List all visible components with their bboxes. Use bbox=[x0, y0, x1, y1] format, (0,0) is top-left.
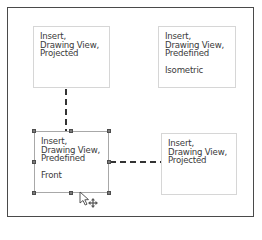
connector-horizontal bbox=[110, 161, 161, 163]
resize-handle-top-left[interactable] bbox=[32, 129, 36, 133]
view-sublabel: Front bbox=[41, 171, 108, 180]
resize-handle-top-center[interactable] bbox=[69, 129, 73, 133]
view-label-line: Predefined bbox=[41, 154, 108, 163]
view-box-front-selected[interactable]: Insert, Drawing View, Predefined Front bbox=[34, 131, 109, 193]
connector-vertical bbox=[65, 89, 67, 131]
resize-handle-middle-left[interactable] bbox=[32, 160, 36, 164]
move-cursor-icon bbox=[79, 191, 99, 209]
resize-handle-bottom-left[interactable] bbox=[32, 191, 36, 195]
view-box-projected-right[interactable]: Insert, Drawing View, Projected bbox=[161, 133, 237, 195]
view-label-line: Projected bbox=[40, 49, 109, 58]
resize-handle-bottom-center[interactable] bbox=[69, 191, 73, 195]
view-box-projected-top[interactable]: Insert, Drawing View, Projected bbox=[33, 26, 110, 88]
resize-handle-bottom-right[interactable] bbox=[107, 191, 111, 195]
view-label-line: Projected bbox=[168, 156, 236, 165]
view-label-line: Predefined bbox=[165, 49, 235, 58]
view-sublabel: Isometric bbox=[165, 66, 235, 75]
resize-handle-top-right[interactable] bbox=[107, 129, 111, 133]
resize-handle-middle-right[interactable] bbox=[107, 160, 111, 164]
view-box-isometric[interactable]: Insert, Drawing View, Predefined Isometr… bbox=[158, 26, 236, 88]
